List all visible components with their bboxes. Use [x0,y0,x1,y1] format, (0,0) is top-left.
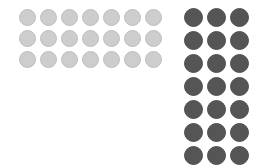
dot-marker [207,123,226,142]
dot-marker [184,100,203,119]
dot-marker [124,30,141,47]
dot-marker [124,9,141,26]
dot-marker [207,146,226,165]
dot-marker [19,9,36,26]
dot-marker [145,30,162,47]
dot-marker [184,123,203,142]
dot-marker [103,30,120,47]
dot-marker [61,51,78,68]
dot-marker [207,8,226,27]
dot-marker [230,8,249,27]
dot-marker [61,30,78,47]
dot-marker [207,77,226,96]
dot-marker [103,51,120,68]
dot-marker [82,30,99,47]
dot-marker [184,31,203,50]
dot-marker [230,31,249,50]
dot-marker [184,54,203,73]
dot-marker [19,51,36,68]
dot-marker [40,9,57,26]
dot-marker [103,9,120,26]
dot-marker [207,54,226,73]
dot-marker [230,100,249,119]
dot-marker [19,30,36,47]
light-dot-array-group [19,9,166,72]
dot-marker [145,51,162,68]
dot-marker [230,77,249,96]
dot-marker [61,9,78,26]
dot-marker [40,51,57,68]
dot-marker [145,9,162,26]
dot-marker [124,51,141,68]
dot-marker [207,31,226,50]
dot-marker [230,123,249,142]
dot-marker [230,54,249,73]
dot-marker [82,51,99,68]
dot-marker [230,146,249,165]
dot-marker [184,146,203,165]
dark-dot-array-group [184,8,253,168]
dot-marker [184,8,203,27]
dot-marker [207,100,226,119]
dot-marker [82,9,99,26]
dot-marker [184,77,203,96]
dot-array-canvas [0,0,264,168]
dot-marker [40,30,57,47]
